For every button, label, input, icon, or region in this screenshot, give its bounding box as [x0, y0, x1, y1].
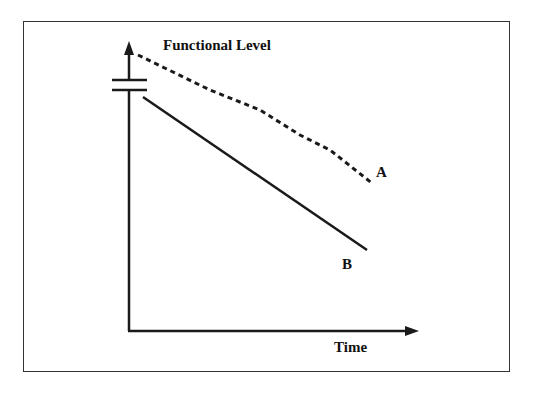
series-b-line — [143, 97, 367, 250]
y-axis-arrow-icon — [124, 41, 134, 55]
axis-break-gap — [122, 81, 136, 89]
x-axis-arrow-icon — [405, 326, 419, 336]
series-a-line — [138, 55, 373, 184]
series-a-label: A — [376, 164, 387, 181]
diagram-canvas — [0, 0, 533, 393]
x-axis-label: Time — [334, 339, 367, 356]
series-b-label: B — [342, 256, 352, 273]
y-axis-label: Functional Level — [163, 37, 271, 54]
